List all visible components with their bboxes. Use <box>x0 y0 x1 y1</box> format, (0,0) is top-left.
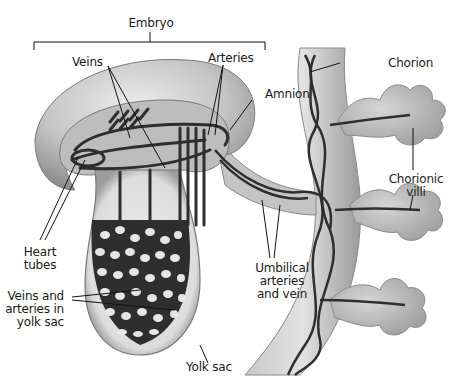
label-embryo: Embryo <box>128 17 174 30</box>
label-yolk-sac: Yolk sac <box>186 361 232 374</box>
label-yolk-sac-vessels: Veins and arteries in yolk sac <box>2 290 64 329</box>
label-heart-tubes: Heart tubes <box>18 246 62 272</box>
label-chorionic-villi: Chorionic villi <box>388 173 444 199</box>
yolk-sac <box>85 170 200 355</box>
label-veins: Veins <box>72 56 103 69</box>
label-umbilical-vessels: Umbilical arteries and vein <box>252 262 312 301</box>
label-heart-tubes-line2: tubes <box>18 259 62 272</box>
label-chorion: Chorion <box>388 57 433 70</box>
label-arteries: Arteries <box>208 52 254 65</box>
label-umbilical-line3: and vein <box>252 288 312 301</box>
label-yolk-vessels-line3: yolk sac <box>2 316 64 329</box>
label-chorionic-villi-line2: villi <box>388 186 444 199</box>
label-amnion: Amnion <box>265 88 310 101</box>
